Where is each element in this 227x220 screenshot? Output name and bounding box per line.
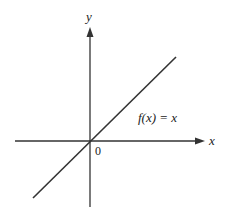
x-axis-arrow-icon — [195, 138, 205, 145]
function-label: f(x) = x — [138, 110, 177, 125]
function-line — [33, 57, 176, 198]
origin-label: 0 — [95, 144, 101, 158]
identity-function-graph: x y 0 f(x) = x — [0, 0, 227, 220]
x-axis-label: x — [208, 133, 215, 148]
y-axis-label: y — [84, 9, 92, 24]
y-axis-arrow-icon — [87, 27, 94, 37]
